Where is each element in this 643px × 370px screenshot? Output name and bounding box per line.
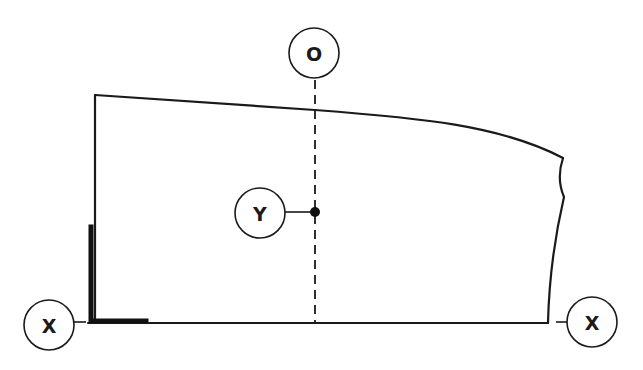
callout-x-right: X — [567, 297, 617, 347]
right-edge — [548, 158, 564, 323]
callout-y-label: Y — [252, 203, 267, 225]
callout-x-left-label: X — [42, 315, 57, 337]
callout-y: Y — [235, 188, 285, 238]
callout-o: O — [289, 28, 339, 78]
callout-o-label: O — [306, 43, 322, 65]
panel-outline — [95, 95, 564, 323]
corner-mark — [91, 227, 146, 321]
diagram-canvas: O Y X X — [0, 0, 643, 370]
callout-x-right-label: X — [585, 312, 600, 334]
top-edge — [95, 95, 563, 158]
point-dot — [310, 207, 320, 217]
callout-x-left: X — [24, 300, 74, 350]
